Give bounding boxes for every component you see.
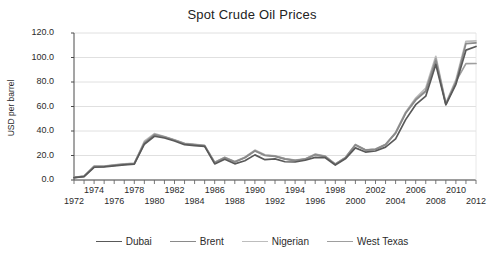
legend-swatch <box>242 241 268 242</box>
x-tick-label: 1996 <box>298 196 332 206</box>
x-tick-label: 1972 <box>57 196 91 206</box>
legend-item[interactable]: Brent <box>170 236 224 247</box>
x-tick-label: 1974 <box>77 185 111 195</box>
x-tick-label: 1994 <box>278 185 312 195</box>
legend-swatch <box>170 241 196 242</box>
x-tick-label: 2002 <box>359 185 393 195</box>
legend-swatch <box>327 241 353 242</box>
legend-label: Dubai <box>126 236 152 247</box>
x-tick-label: 2004 <box>379 196 413 206</box>
x-tick-label: 1982 <box>158 185 192 195</box>
x-tick-label: 1978 <box>117 185 151 195</box>
legend-item[interactable]: West Texas <box>327 236 408 247</box>
x-tick-label: 1980 <box>137 196 171 206</box>
x-tick-label: 1992 <box>258 196 292 206</box>
x-tick-label: 1984 <box>178 196 212 206</box>
x-tick-label: 1990 <box>238 185 272 195</box>
legend-label: West Texas <box>357 236 408 247</box>
x-axis-ticks: 1972197419761978198019821984198619881990… <box>0 0 504 265</box>
legend-label: Brent <box>200 236 224 247</box>
x-tick-label: 2006 <box>399 185 433 195</box>
legend-label: Nigerian <box>272 236 309 247</box>
legend-item[interactable]: Nigerian <box>242 236 309 247</box>
x-tick-label: 1998 <box>318 185 352 195</box>
x-tick-label: 1988 <box>218 196 252 206</box>
x-tick-label: 1976 <box>97 196 131 206</box>
legend-item[interactable]: Dubai <box>96 236 152 247</box>
x-tick-label: 1986 <box>198 185 232 195</box>
x-tick-label: 2000 <box>338 196 372 206</box>
x-tick-label: 2008 <box>419 196 453 206</box>
x-tick-label: 2010 <box>439 185 473 195</box>
chart-figure: Spot Crude Oil Prices USD per barrel 0.0… <box>0 0 504 265</box>
chart-legend: DubaiBrentNigerianWest Texas <box>0 236 504 247</box>
x-tick-label: 2012 <box>459 196 493 206</box>
legend-swatch <box>96 241 122 242</box>
